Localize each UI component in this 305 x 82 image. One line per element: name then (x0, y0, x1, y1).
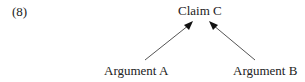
arrow-b-to-claim (209, 21, 255, 60)
arrow-a-to-claim (145, 21, 193, 60)
arrowhead-icon (184, 21, 193, 30)
support-arrows (0, 0, 305, 82)
